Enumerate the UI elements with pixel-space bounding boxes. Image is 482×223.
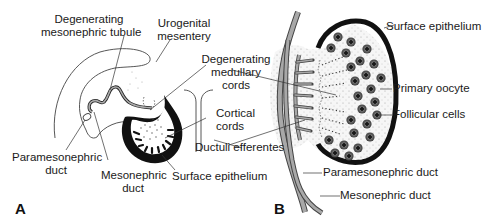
label-paramesonephric-duct-b: Paramesonephric duct	[323, 166, 438, 179]
label-degenerating-medullary-cords: Degenerating medullary cords	[196, 53, 276, 92]
label-line: cords	[216, 120, 255, 133]
label-line: mesonephric tubule	[41, 26, 137, 39]
label-line: mesentery	[156, 30, 212, 43]
label-line: Degenerating	[41, 13, 137, 26]
label-line: Degenerating	[196, 53, 276, 66]
panel-a-drawing	[54, 49, 213, 164]
label-line: Mesonephric	[101, 169, 165, 182]
label-surface-epithelium-b: Surface epithelium	[386, 20, 481, 33]
panel-letter-a: A	[15, 200, 26, 217]
label-cortical-cords: Cortical cords	[216, 107, 255, 133]
label-ductuli-efferentes: Ductuli efferentes	[195, 141, 284, 154]
label-primary-oocyte: Primary oocyte	[393, 82, 470, 95]
label-line: duct	[12, 164, 100, 177]
panel-letter-b: B	[274, 200, 285, 217]
panel-b-drawing	[270, 12, 396, 213]
label-line: Urogenital	[156, 17, 212, 30]
label-line: duct	[101, 182, 165, 195]
label-surface-epithelium-a: Surface epithelium	[172, 170, 267, 183]
label-paramesonephric-duct-a: Paramesonephric duct	[12, 151, 100, 177]
label-line: Cortical	[216, 107, 255, 120]
label-degenerating-mesonephric-tubule: Degenerating mesonephric tubule	[41, 13, 137, 39]
label-mesonephric-duct-a: Mesonephric duct	[101, 169, 165, 195]
label-line: Paramesonephric	[12, 151, 100, 164]
label-mesonephric-duct-b: Mesonephric duct	[340, 189, 431, 202]
label-line: cords	[196, 79, 276, 92]
label-urogenital-mesentery: Urogenital mesentery	[156, 17, 212, 43]
label-follicular-cells: Follicular cells	[393, 108, 465, 121]
label-line: medullary	[196, 66, 276, 79]
